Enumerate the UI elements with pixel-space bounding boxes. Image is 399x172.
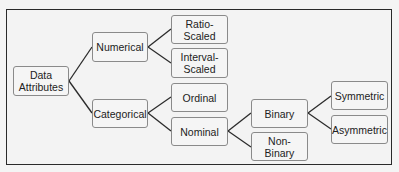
node-label-line2: Attributes [19, 81, 63, 93]
node-symmetric: Symmetric [331, 81, 388, 110]
node-categorical: Categorical [92, 99, 148, 128]
node-numerical: Numerical [92, 32, 148, 62]
node-label-line2: Scaled [183, 63, 215, 75]
edge-numerical-interval [148, 47, 171, 63]
node-label: Binary [265, 108, 295, 120]
edge-nominal-nonbinary [228, 131, 251, 147]
edge-data-numerical [69, 47, 92, 81]
node-label: Symmetric [335, 90, 385, 102]
node-label: Ratio-Scaled [174, 18, 225, 42]
edge-categorical-nominal [148, 113, 171, 131]
node-label: Ordinal [183, 92, 217, 104]
node-label-line1: Data [30, 69, 52, 81]
node-ordinal: Ordinal [171, 83, 228, 112]
edge-categorical-ordinal [148, 97, 171, 113]
node-label: Asymmetric [332, 124, 387, 136]
node-nominal: Nominal [171, 117, 228, 146]
edge-data-categorical [69, 81, 92, 113]
node-ratio-scaled: Ratio-Scaled [171, 15, 228, 44]
edge-binary-asymmetric [308, 113, 331, 129]
node-binary: Binary [251, 99, 308, 128]
node-label: Categorical [93, 108, 146, 120]
node-label-line1: Interval- [181, 51, 219, 63]
edge-binary-symmetric [308, 96, 331, 113]
edge-nominal-binary [228, 113, 251, 131]
node-label: Nominal [180, 126, 219, 138]
node-asymmetric: Asymmetric [331, 115, 388, 144]
node-label: Non-Binary [254, 135, 305, 159]
node-interval-scaled: Interval- Scaled [171, 48, 228, 78]
node-non-binary: Non-Binary [251, 132, 308, 161]
edge-numerical-ratio [148, 29, 171, 47]
node-label: Numerical [96, 41, 143, 53]
node-data-attributes: Data Attributes [13, 66, 69, 96]
